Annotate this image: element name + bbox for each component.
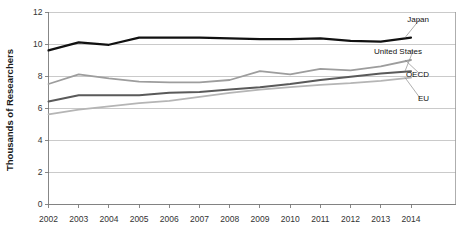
y-tick-label: 10 (33, 39, 43, 49)
line-chart: 024681012 200220032004200520062007200820… (0, 0, 469, 237)
series-label-eu: EU (418, 94, 429, 103)
chart-canvas: 024681012 200220032004200520062007200820… (0, 0, 469, 237)
x-tick-label: 2002 (39, 214, 58, 224)
x-tick-label: 2009 (250, 214, 269, 224)
series-label-oecd: OECD (406, 70, 429, 79)
y-tick-label: 4 (38, 135, 43, 145)
x-tick-label: 2006 (160, 214, 179, 224)
x-tick-label: 2007 (190, 214, 209, 224)
x-tick-label: 2012 (341, 214, 360, 224)
x-tick-label: 2004 (99, 214, 118, 224)
x-tick-label: 2014 (402, 214, 421, 224)
y-tick-label: 8 (38, 71, 43, 81)
series-label-united-states: United States (374, 47, 422, 56)
y-tick-labels-group: 024681012 (33, 7, 43, 209)
x-tick-label: 2010 (281, 214, 300, 224)
y-tick-label: 6 (38, 103, 43, 113)
x-tick-label: 2005 (130, 214, 149, 224)
x-tick-label: 2008 (220, 214, 239, 224)
series-labels-group: JapanUnited StatesOECDEU (374, 15, 429, 103)
x-tick-label: 2011 (311, 214, 330, 224)
x-tick-label: 2003 (69, 214, 88, 224)
x-tick-labels-group: 2002200320042005200620072008200920102011… (39, 214, 421, 224)
series-label-japan: Japan (407, 15, 429, 24)
y-tick-label: 0 (38, 199, 43, 209)
series-line-oecd (49, 60, 412, 84)
y-tick-label: 12 (33, 7, 43, 17)
y-axis-title: Thousands of Researchers (4, 49, 15, 171)
y-tick-marks-group (45, 12, 49, 204)
y-tick-label: 2 (38, 167, 43, 177)
x-tick-marks-group (49, 204, 412, 208)
x-tick-label: 2013 (371, 214, 390, 224)
